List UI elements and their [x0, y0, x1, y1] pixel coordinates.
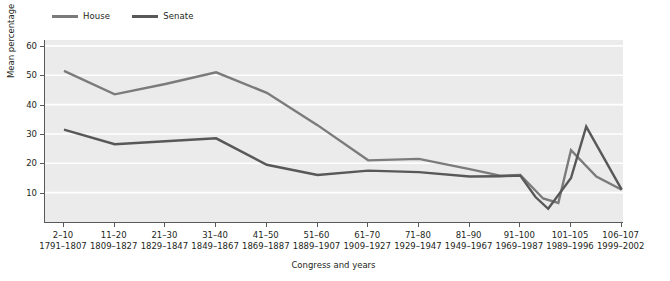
x-tick-years-label: 1999–2002: [586, 241, 656, 252]
x-axis: 2–101791–180711–201809–182721–301829–184…: [44, 223, 623, 263]
x-tick-mark: [469, 223, 470, 227]
series-lines: [64, 71, 622, 209]
legend-item-house: House: [52, 11, 110, 21]
line-chart: House Senate 102030405060 Mean percentag…: [0, 0, 670, 281]
gridlines: [45, 46, 623, 193]
x-tick-mark: [63, 223, 64, 227]
legend-label-house: House: [83, 11, 110, 21]
x-axis-title: Congress and years: [44, 260, 623, 271]
x-tick-mark: [114, 223, 115, 227]
plot-svg: [45, 40, 623, 222]
legend-item-senate: Senate: [132, 11, 193, 21]
chart-legend: House Senate: [52, 8, 194, 24]
x-tick-mark: [519, 223, 520, 227]
series-line-senate: [64, 127, 622, 209]
y-tick-label: 10: [3, 188, 37, 197]
legend-swatch-senate: [132, 15, 158, 18]
x-tick-mark: [621, 223, 622, 227]
x-tick-mark: [266, 223, 267, 227]
y-axis-title: Mean percentage: [6, 4, 16, 78]
legend-label-senate: Senate: [163, 11, 193, 21]
x-tick-mark: [164, 223, 165, 227]
x-tick-mark: [367, 223, 368, 227]
plot-area: [44, 40, 623, 223]
x-tick-label-group: 106–1071999–2002: [586, 230, 656, 252]
series-line-house: [64, 71, 622, 203]
x-tick-mark: [317, 223, 318, 227]
x-tick-mark: [570, 223, 571, 227]
x-tick-mark: [418, 223, 419, 227]
y-tick-label: 20: [3, 159, 37, 168]
x-tick-mark: [215, 223, 216, 227]
x-tick-congress-label: 106–107: [586, 230, 656, 241]
y-tick-label: 30: [3, 129, 37, 138]
y-tick-label: 40: [3, 100, 37, 109]
legend-swatch-house: [52, 15, 78, 18]
